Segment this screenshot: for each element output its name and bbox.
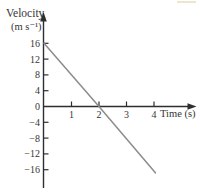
y-tick-label: −12 (24, 148, 40, 159)
y-tick-label: 0 (35, 101, 40, 112)
y-tick-label: −16 (24, 164, 40, 175)
scan-artifact (177, 1, 196, 3)
y-tick-label: −8 (29, 133, 40, 144)
x-axis-title: Time (s) (160, 108, 196, 119)
x-tick-label: 3 (124, 109, 129, 120)
y-tick-label: 16 (30, 38, 40, 49)
velocity-time-graph: 1612840−4−8−12−161234 Velocity (m s⁻¹) T… (0, 0, 200, 196)
x-tick-label: 1 (69, 109, 74, 120)
y-tick-label: 8 (35, 69, 40, 80)
y-tick-label: 4 (35, 85, 40, 96)
x-tick-label: 2 (97, 109, 102, 120)
y-tick-label: 12 (30, 54, 40, 65)
y-axis-title: Velocity (6, 7, 44, 19)
y-tick-label: −4 (29, 117, 40, 128)
y-axis-unit-label: (m s⁻¹) (11, 20, 42, 32)
velocity-line (44, 43, 155, 173)
x-tick-label: 4 (152, 109, 157, 120)
